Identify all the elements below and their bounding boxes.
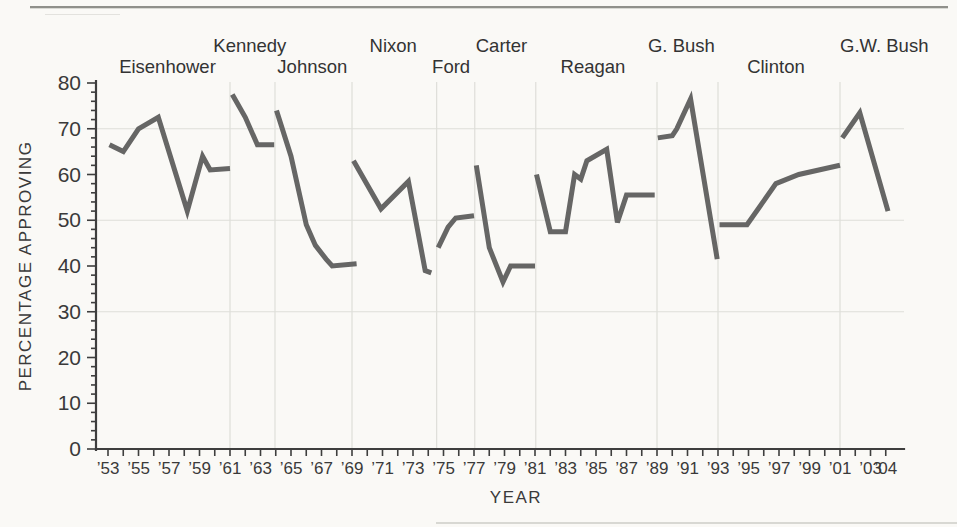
x-tick-label-2004: ’04 — [874, 459, 897, 478]
president-label-eisenhower: Eisenhower — [119, 56, 216, 77]
x-tick-label-2001: ’01 — [829, 459, 852, 478]
y-tick-label-60: 60 — [58, 163, 81, 186]
x-tick-label-1977: ’77 — [463, 459, 486, 478]
president-labels: EisenhowerKennedyJohnsonNixonFordCarterR… — [119, 35, 928, 77]
scan-artifact-line — [436, 522, 957, 524]
x-tick-label-1985: ’85 — [585, 459, 608, 478]
approval-line-nixon — [354, 161, 432, 273]
y-tick-label-70: 70 — [58, 117, 81, 140]
president-label-ford: Ford — [432, 56, 470, 77]
x-tick-label-1965: ’65 — [280, 459, 303, 478]
approval-line-eisenhower — [110, 117, 231, 211]
y-tick-label-30: 30 — [58, 300, 81, 323]
president-label-carter: Carter — [476, 35, 527, 56]
y-axis-tick-labels: 01020304050607080 — [58, 71, 81, 460]
x-tick-label-1971: ’71 — [371, 459, 394, 478]
president-label-clinton: Clinton — [747, 56, 805, 77]
x-tick-label-1989: ’89 — [646, 459, 669, 478]
x-tick-label-1959: ’59 — [188, 459, 211, 478]
y-tick-label-10: 10 — [58, 391, 81, 414]
x-tick-label-1995: ’95 — [737, 459, 760, 478]
y-tick-label-0: 0 — [69, 437, 81, 460]
approval-line-reagan — [537, 149, 655, 231]
president-label-kennedy: Kennedy — [213, 35, 287, 56]
y-tick-label-50: 50 — [58, 208, 81, 231]
x-tick-label-1983: ’83 — [554, 459, 577, 478]
x-tick-label-1993: ’93 — [707, 459, 730, 478]
approval-line-g-w-bush — [842, 113, 888, 211]
y-axis-ticks — [87, 83, 96, 449]
approval-line-clinton — [720, 165, 841, 225]
approval-line-g-bush — [658, 99, 717, 259]
page: 01020304050607080 ’53’55’57’59’61’63’65’… — [0, 0, 957, 527]
x-tick-label-1979: ’79 — [493, 459, 516, 478]
y-tick-label-80: 80 — [58, 71, 81, 94]
x-tick-label-1961: ’61 — [219, 459, 242, 478]
axes — [96, 81, 904, 450]
x-tick-label-1997: ’97 — [768, 459, 791, 478]
x-axis-title: YEAR — [490, 488, 542, 507]
x-tick-label-1981: ’81 — [524, 459, 547, 478]
president-label-g-bush: G. Bush — [648, 35, 715, 56]
y-tick-label-40: 40 — [58, 254, 81, 277]
x-tick-label-1999: ’99 — [798, 459, 821, 478]
x-tick-label-1955: ’55 — [127, 459, 150, 478]
x-axis-tick-labels: ’53’55’57’59’61’63’65’67’69’71’73’75’77’… — [97, 459, 897, 478]
presidential-approval-line-chart: 01020304050607080 ’53’55’57’59’61’63’65’… — [0, 0, 957, 527]
president-label-g-w-bush: G.W. Bush — [840, 35, 928, 56]
y-axis-title: PERCENTAGE APPROVING — [16, 141, 35, 392]
x-tick-label-1957: ’57 — [158, 459, 181, 478]
y-tick-label-20: 20 — [58, 346, 81, 369]
president-label-nixon: Nixon — [370, 35, 417, 56]
approval-line-carter — [476, 165, 535, 282]
x-tick-label-1991: ’91 — [676, 459, 699, 478]
president-label-johnson: Johnson — [277, 56, 347, 77]
x-tick-label-1987: ’87 — [615, 459, 638, 478]
president-label-reagan: Reagan — [561, 56, 626, 77]
x-tick-label-1975: ’75 — [432, 459, 455, 478]
x-tick-label-1969: ’69 — [341, 459, 364, 478]
horizontal-gridlines — [96, 129, 904, 312]
approval-line-segments — [110, 94, 889, 282]
x-tick-label-1967: ’67 — [310, 459, 333, 478]
approval-line-johnson — [277, 110, 357, 266]
x-tick-label-1973: ’73 — [402, 459, 425, 478]
x-tick-label-1963: ’63 — [249, 459, 272, 478]
approval-line-kennedy — [232, 94, 274, 144]
x-tick-label-1953: ’53 — [97, 459, 120, 478]
